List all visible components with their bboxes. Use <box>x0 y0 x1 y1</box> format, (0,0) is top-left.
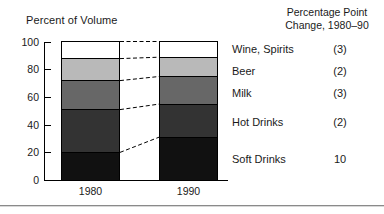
legend-row-soft-drinks: Soft Drinks 10 <box>232 152 384 166</box>
legend-row-hot-drinks: Hot Drinks (2) <box>232 115 384 129</box>
x-axis-label-1980: 1980 <box>61 185 120 197</box>
legend-value-hot-drinks: (2) <box>318 115 362 129</box>
connector-lines <box>0 0 384 214</box>
legend-label-beer: Beer <box>232 64 255 78</box>
plot-area: 100 80 60 40 20 0 <box>0 0 384 214</box>
legend-label-hot-drinks: Hot Drinks <box>232 115 283 129</box>
legend-label-milk: Milk <box>232 86 252 100</box>
legend-value-beer: (2) <box>318 64 362 78</box>
legend-label-soft-drinks: Soft Drinks <box>232 152 286 166</box>
legend-row-milk: Milk (3) <box>232 86 384 100</box>
chart-figure: Percent of Volume Percentage Point Chang… <box>0 0 384 214</box>
legend-value-wine-spirits: (3) <box>318 42 362 56</box>
x-axis-label-1990: 1990 <box>159 185 218 197</box>
legend-value-soft-drinks: 10 <box>318 152 362 166</box>
bottom-divider-shadow <box>0 206 384 207</box>
legend-row-wine-spirits: Wine, Spirits (3) <box>232 42 384 56</box>
legend-label-wine-spirits: Wine, Spirits <box>232 42 294 56</box>
legend-row-beer: Beer (2) <box>232 64 384 78</box>
legend-value-milk: (3) <box>318 86 362 100</box>
